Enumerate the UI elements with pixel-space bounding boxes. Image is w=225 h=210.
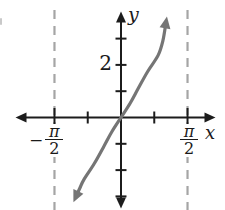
fraction-numerator: π: [182, 124, 197, 139]
y-axis-arrow-up: [116, 12, 126, 23]
y-axis-label: y: [128, 5, 139, 24]
x-axis-arrow-right: [205, 113, 216, 123]
fraction-denominator: 2: [180, 139, 198, 157]
scan-artifact: [0, 18, 2, 25]
fraction-pi-over-2: π 2: [180, 124, 198, 157]
minus-sign: −: [29, 132, 43, 149]
y-tick-label-2: 2: [93, 53, 112, 73]
left-asymptote-label: − π 2: [27, 124, 65, 157]
axes: [16, 12, 216, 209]
fraction-pi-over-2: π 2: [45, 124, 63, 157]
curve-arrow-top: [160, 16, 171, 29]
fraction-numerator: π: [47, 124, 62, 139]
right-asymptote-label: π 2: [178, 124, 200, 157]
x-axis-arrow-left: [16, 113, 27, 123]
graph-canvas: [0, 0, 225, 210]
fraction-denominator: 2: [45, 139, 63, 157]
tangent-figure: y x 2 − π 2 π 2: [0, 0, 225, 210]
y-axis-arrow-down: [116, 198, 126, 209]
x-axis-label: x: [205, 124, 215, 142]
